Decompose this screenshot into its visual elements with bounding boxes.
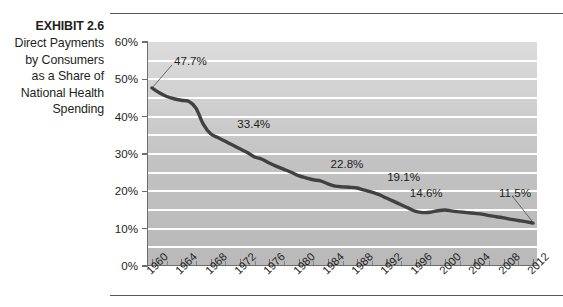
y-axis-label: 30% (104, 147, 138, 160)
y-axis-label-wrap: 0% (104, 259, 138, 273)
y-axis-label-wrap: 10% (104, 222, 138, 236)
y-axis-label: 10% (104, 222, 138, 235)
y-axis-tick (142, 153, 147, 154)
gridline (148, 116, 537, 118)
y-axis-line (147, 41, 148, 267)
gridline (148, 172, 537, 174)
data-point-label: 11.5% (499, 186, 531, 199)
data-point-label: 19.1% (387, 170, 420, 183)
y-axis-label-wrap: 60% (104, 35, 138, 49)
data-point-label: 22.8% (331, 157, 364, 170)
y-axis-tick (142, 191, 147, 192)
gridline (148, 190, 537, 192)
gridline (148, 97, 537, 99)
y-axis-tick (142, 41, 147, 42)
data-point-label: 14.6% (410, 186, 443, 199)
y-axis-label-wrap: 40% (104, 110, 138, 124)
gridline (148, 78, 537, 80)
y-axis-label-wrap: 30% (104, 147, 138, 161)
gridline (148, 134, 537, 136)
gridline (148, 228, 537, 230)
y-axis-label: 40% (104, 110, 138, 123)
y-axis-label-wrap: 20% (104, 184, 138, 198)
y-axis-label: 0% (104, 259, 138, 272)
plot-area (148, 42, 537, 266)
y-axis-tick (142, 228, 147, 229)
gridline (148, 209, 537, 211)
y-axis-label-wrap: 50% (104, 72, 138, 86)
data-point-label: 33.4% (237, 117, 270, 130)
data-point-label: 47.7% (174, 54, 207, 67)
y-axis-label: 20% (104, 184, 138, 197)
gridline (148, 153, 537, 155)
line-chart: 0%10%20%30%40%50%60%19601964196819721976… (0, 0, 563, 307)
gridline (148, 246, 537, 248)
y-axis-label: 50% (104, 72, 138, 85)
y-axis-tick (142, 79, 147, 80)
y-axis-tick (142, 116, 147, 117)
y-axis-label: 60% (104, 35, 138, 48)
